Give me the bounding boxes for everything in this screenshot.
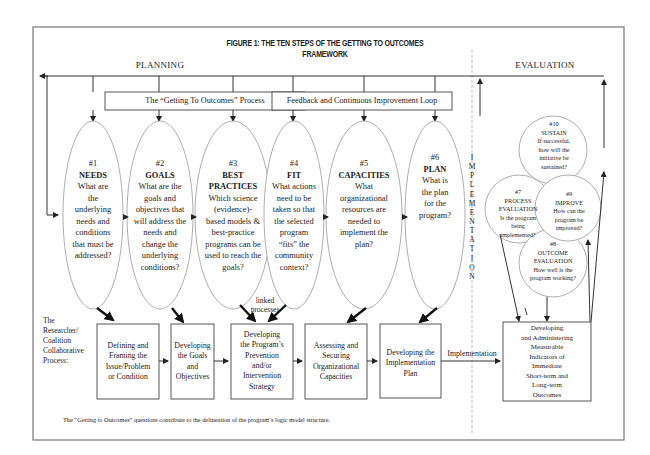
- letter: T: [467, 226, 477, 235]
- question-line: How can the: [540, 207, 598, 216]
- implementation-arrow-label: Implementation: [443, 349, 501, 359]
- question-line: What are: [63, 181, 123, 193]
- box-line: the Program’s: [231, 340, 293, 350]
- question-line: used to reach the: [193, 250, 273, 262]
- linked-line: processes: [245, 305, 285, 314]
- box-line: Implementation: [378, 358, 443, 368]
- step-number: #6: [405, 152, 465, 164]
- letter: N: [467, 217, 477, 226]
- step-number: #1: [63, 158, 123, 170]
- step-name: GOALS: [125, 170, 195, 182]
- question-line: plan?: [326, 239, 402, 251]
- step-8-text: #8 OUTCOME EVALUATION How well is the pr…: [522, 240, 584, 283]
- step-4-text: #4 FIT What actions need to be taken so …: [262, 158, 326, 273]
- label-line: Researcher/: [43, 326, 103, 336]
- box-line: Capacities: [305, 372, 367, 382]
- question-line: objectives that: [125, 204, 195, 216]
- question-line: How well is the: [522, 266, 584, 275]
- question-line: What is: [405, 175, 465, 187]
- step-name: PRACTICES: [193, 181, 273, 193]
- question-line: based models &: [193, 216, 273, 228]
- step-number: #5: [326, 158, 402, 170]
- question-line: underlying: [125, 250, 195, 262]
- step-number: #4: [262, 158, 326, 170]
- question-line: the selected: [262, 216, 326, 228]
- letter: T: [467, 244, 477, 253]
- process-box-goals-text: Developing the Goals and Objectives: [171, 341, 214, 382]
- question-line: improved?: [540, 224, 598, 233]
- step-name: IMPROVE: [540, 199, 598, 208]
- step-3-text: #3 BEST PRACTICES Which science (evidenc…: [193, 158, 273, 273]
- step-number: #3: [193, 158, 273, 170]
- question-line: underlying: [63, 204, 123, 216]
- evaluation-header: EVALUATION: [505, 60, 585, 71]
- question-line: context?: [262, 262, 326, 274]
- question-line: programs can be: [193, 239, 273, 251]
- letter: I: [467, 254, 477, 263]
- box-line: Objectives: [171, 372, 214, 382]
- question-line: Which science: [193, 193, 273, 205]
- step-number: #9: [540, 190, 598, 199]
- question-line: for the: [405, 198, 465, 210]
- box-line: and Administering: [503, 334, 591, 344]
- question-line: program?: [405, 210, 465, 222]
- box-line: Intervention: [231, 371, 293, 381]
- question-line: “fits” the: [262, 239, 326, 251]
- label-line: Coalition: [43, 336, 103, 346]
- step-number: #2: [125, 158, 195, 170]
- box-line: Strategy: [231, 382, 293, 392]
- label-line: Collaborative: [43, 346, 103, 356]
- letter: E: [467, 190, 477, 199]
- box-line: Issue/Problem: [97, 362, 159, 372]
- question-line: conditions?: [125, 262, 195, 274]
- box-line: the Goals: [171, 351, 214, 361]
- box-line: Framing the: [97, 351, 159, 361]
- question-line: needs and: [63, 216, 123, 228]
- step-number: #8: [522, 240, 584, 249]
- step-name: SUSTAIN: [525, 129, 583, 138]
- process-box-implementation-plan-text: Developing the Implementation Plan: [378, 348, 443, 379]
- box-line: Measurable: [503, 343, 591, 353]
- box-line: Defining and: [97, 341, 159, 351]
- box-line: and: [171, 362, 214, 372]
- question-line: (evidence)-: [193, 204, 273, 216]
- label-line: Process:: [43, 356, 103, 366]
- step-2-text: #2 GOALS What are the goals and objectiv…: [125, 158, 195, 273]
- box-line: Plan: [378, 369, 443, 379]
- box-line: and/or: [231, 361, 293, 371]
- question-line: goals?: [193, 262, 273, 274]
- question-line: taken so that: [262, 204, 326, 216]
- box-line: Long-term: [503, 381, 591, 391]
- question-line: What are the: [125, 181, 195, 193]
- question-line: best-practice: [193, 227, 273, 239]
- box-line: Organizational: [305, 362, 367, 372]
- step-name: OUTCOME: [522, 249, 584, 258]
- step-number: #10: [525, 120, 583, 129]
- question-line: the: [63, 193, 123, 205]
- figure-title-line-2: FRAMEWORK: [173, 49, 476, 60]
- box-line: Indicators of: [503, 353, 591, 363]
- step-name: CAPACITIES: [326, 170, 402, 182]
- question-line: implement the: [326, 227, 402, 239]
- box-line: Developing: [171, 341, 214, 351]
- planning-header: PLANNING: [120, 60, 200, 71]
- box-line: Short-term and: [503, 372, 591, 382]
- question-line: resources are: [326, 204, 402, 216]
- question-line: addressed?: [63, 250, 123, 262]
- box-line: Immediate: [503, 362, 591, 372]
- step-5-text: #5 CAPACITIES What organizational resour…: [326, 158, 402, 250]
- question-line: community: [262, 250, 326, 262]
- linked-line: linked: [245, 296, 285, 305]
- question-line: needed to: [326, 216, 402, 228]
- question-line: What: [326, 181, 402, 193]
- letter: M: [467, 199, 477, 208]
- step-name: EVALUATION: [522, 257, 584, 266]
- question-line: What actions: [262, 181, 326, 193]
- question-line: program be: [540, 216, 598, 225]
- figure-title: FIGURE 1: THE TEN STEPS OF THE GETTING T…: [173, 38, 476, 61]
- question-line: If successful,: [525, 137, 583, 146]
- box-line: Developing: [503, 324, 591, 334]
- letter: A: [467, 235, 477, 244]
- box-line: Developing the: [378, 348, 443, 358]
- box-line: or Condition: [97, 372, 159, 382]
